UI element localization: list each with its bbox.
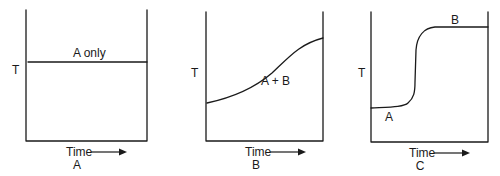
panel-a-y-axis-label: T xyxy=(12,63,19,77)
panel-a-time-arrow-icon xyxy=(119,149,127,156)
panel-c-curve-label-low: A xyxy=(385,110,393,124)
panel-b-letter: B xyxy=(246,158,266,172)
panel-c-time-arrow-icon xyxy=(462,150,470,157)
panel-c-curve-label-high: B xyxy=(451,13,459,27)
panel-b-x-axis-label: Time xyxy=(245,145,271,159)
panel-b-time-arrow-icon xyxy=(298,149,306,156)
panel-c-x-axis-label: Time xyxy=(409,146,435,160)
panel-a-x-axis-label: Time xyxy=(66,145,92,159)
panel-b-y-axis-label: T xyxy=(191,66,198,80)
panel-a-curve-label: A only xyxy=(73,46,106,60)
panel-c-letter: C xyxy=(410,159,430,173)
panel-a-frame xyxy=(26,10,147,141)
temperature-time-diagrams: T A only Time A T A + B Time B T A B Tim… xyxy=(0,0,500,176)
panel-c-curve xyxy=(371,27,488,108)
panel-b-curve-label: A + B xyxy=(261,74,290,88)
panel-c-y-axis-label: T xyxy=(358,66,365,80)
panel-a-letter: A xyxy=(67,158,87,172)
panel-b-curve xyxy=(207,38,323,103)
